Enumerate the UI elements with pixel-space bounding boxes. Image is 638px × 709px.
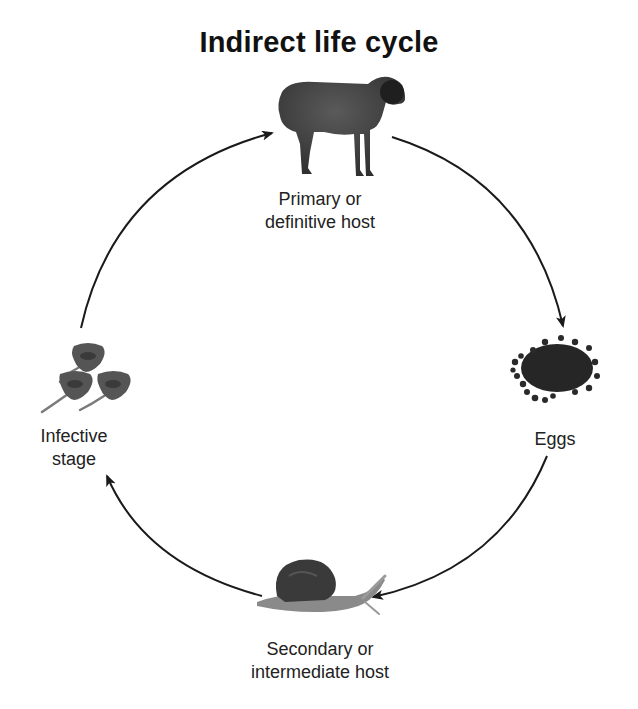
label-infective-stage: Infective stage bbox=[14, 425, 134, 471]
arrow-secondary-to-infective bbox=[107, 476, 262, 596]
snail-icon bbox=[255, 556, 390, 618]
arrow-eggs-to-secondary bbox=[373, 456, 547, 597]
eggs-cluster-icon bbox=[505, 330, 605, 410]
label-primary-host: Primary or definitive host bbox=[220, 188, 420, 234]
label-eggs: Eggs bbox=[500, 428, 610, 451]
label-secondary-host: Secondary or intermediate host bbox=[200, 638, 440, 684]
cercariae-icon bbox=[38, 338, 148, 418]
sheep-icon bbox=[270, 72, 410, 184]
